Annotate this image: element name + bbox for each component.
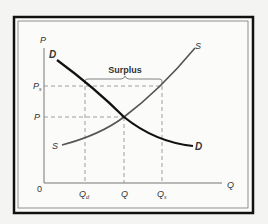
surplus-label: Surplus bbox=[108, 65, 142, 75]
qd-label: Q bbox=[79, 189, 86, 199]
demand-label-top: D bbox=[49, 49, 56, 60]
qs-label: Q bbox=[157, 189, 164, 199]
p-label: P bbox=[34, 112, 40, 122]
demand-label-bottom: D bbox=[195, 141, 202, 152]
outer-frame bbox=[14, 17, 253, 213]
supply-demand-chart: Surplus P Q 0 P s P Q d Q Q s D D S S bbox=[0, 0, 268, 224]
supply-label-top: S bbox=[195, 41, 201, 51]
origin-label: 0 bbox=[37, 184, 42, 194]
q-label: Q bbox=[121, 189, 128, 199]
y-axis-label: P bbox=[40, 35, 46, 45]
x-axis-label: Q bbox=[227, 180, 234, 190]
supply-label-bottom: S bbox=[52, 141, 58, 151]
